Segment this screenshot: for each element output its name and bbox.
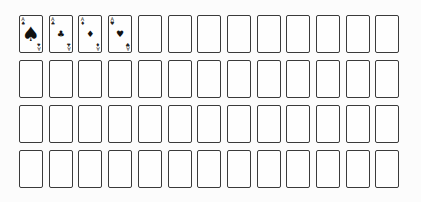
- empty-card-slot[interactable]: [316, 15, 340, 53]
- empty-card-slot[interactable]: [138, 15, 162, 53]
- card-index-bottom: A♠: [37, 43, 41, 51]
- empty-card-slot[interactable]: [346, 105, 370, 143]
- empty-card-slot[interactable]: [346, 15, 370, 53]
- empty-card-slot[interactable]: [78, 150, 102, 188]
- empty-card-slot[interactable]: [375, 60, 399, 98]
- empty-card-slot[interactable]: [168, 15, 192, 53]
- empty-card-slot[interactable]: [257, 15, 281, 53]
- diamonds-icon: ♦: [79, 30, 101, 39]
- empty-card-slot[interactable]: [227, 60, 251, 98]
- empty-card-slot[interactable]: [197, 60, 221, 98]
- empty-card-slot[interactable]: [19, 150, 43, 188]
- empty-card-slot[interactable]: [108, 105, 132, 143]
- spades-icon: ♠: [37, 43, 41, 47]
- clubs-icon: ♣: [51, 21, 55, 25]
- empty-card-slot[interactable]: [286, 105, 310, 143]
- card-a-of-clubs[interactable]: A♣♣A♣: [49, 15, 73, 53]
- empty-card-slot[interactable]: [197, 150, 221, 188]
- empty-card-slot[interactable]: [168, 105, 192, 143]
- empty-card-slot[interactable]: [257, 60, 281, 98]
- hearts-icon: ♥: [126, 43, 130, 47]
- card-index-bottom: A♦: [96, 43, 100, 51]
- empty-card-slot[interactable]: [108, 60, 132, 98]
- empty-card-slot[interactable]: [78, 60, 102, 98]
- empty-card-slot[interactable]: [316, 150, 340, 188]
- card-index-top: A♦: [80, 17, 84, 25]
- empty-card-slot[interactable]: [257, 105, 281, 143]
- empty-card-slot[interactable]: [19, 105, 43, 143]
- clubs-icon: ♣: [50, 30, 72, 39]
- card-a-of-hearts[interactable]: A♥♥A♥: [108, 15, 132, 53]
- hearts-icon: ♥: [109, 30, 131, 39]
- empty-card-slot[interactable]: [375, 15, 399, 53]
- empty-card-slot[interactable]: [346, 150, 370, 188]
- empty-card-slot[interactable]: [375, 105, 399, 143]
- empty-card-slot[interactable]: [138, 60, 162, 98]
- diamonds-icon: ♦: [96, 43, 100, 47]
- hearts-icon: ♥: [110, 21, 114, 25]
- empty-card-slot[interactable]: [316, 60, 340, 98]
- empty-card-slot[interactable]: [168, 150, 192, 188]
- card-index-bottom: A♥: [126, 43, 130, 51]
- diamonds-icon: ♦: [80, 21, 84, 25]
- spades-icon: ♠: [20, 24, 42, 44]
- empty-card-slot[interactable]: [286, 60, 310, 98]
- clubs-icon: ♣: [67, 43, 71, 47]
- empty-card-slot[interactable]: [375, 150, 399, 188]
- card-board: A♠♠A♠A♣♣A♣A♦♦A♦A♥♥A♥: [19, 15, 401, 191]
- card-index-bottom: A♣: [67, 43, 71, 51]
- empty-card-slot[interactable]: [286, 150, 310, 188]
- empty-card-slot[interactable]: [197, 105, 221, 143]
- card-a-of-diamonds[interactable]: A♦♦A♦: [78, 15, 102, 53]
- empty-card-slot[interactable]: [168, 60, 192, 98]
- card-index-top: A♥: [110, 17, 114, 25]
- empty-card-slot[interactable]: [227, 150, 251, 188]
- empty-card-slot[interactable]: [197, 15, 221, 53]
- empty-card-slot[interactable]: [138, 105, 162, 143]
- empty-card-slot[interactable]: [286, 15, 310, 53]
- empty-card-slot[interactable]: [108, 150, 132, 188]
- empty-card-slot[interactable]: [257, 150, 281, 188]
- empty-card-slot[interactable]: [78, 105, 102, 143]
- empty-card-slot[interactable]: [227, 105, 251, 143]
- empty-card-slot[interactable]: [138, 150, 162, 188]
- empty-card-slot[interactable]: [49, 105, 73, 143]
- empty-card-slot[interactable]: [19, 60, 43, 98]
- card-a-of-spades[interactable]: A♠♠A♠: [19, 15, 43, 53]
- empty-card-slot[interactable]: [316, 105, 340, 143]
- empty-card-slot[interactable]: [227, 15, 251, 53]
- empty-card-slot[interactable]: [49, 150, 73, 188]
- card-index-top: A♣: [51, 17, 55, 25]
- empty-card-slot[interactable]: [49, 60, 73, 98]
- empty-card-slot[interactable]: [346, 60, 370, 98]
